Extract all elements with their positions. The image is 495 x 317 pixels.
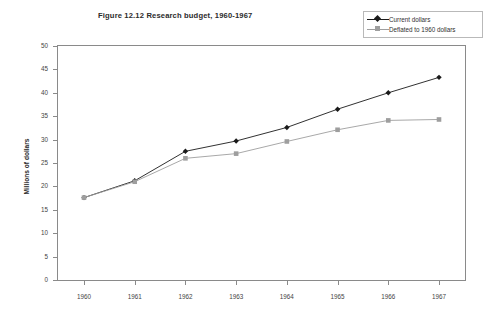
x-tick-mark	[84, 281, 85, 285]
x-axis-ticks: 19601961196219631964196519661967	[57, 281, 466, 311]
chart-legend: Current dollars Deflated to 1960 dollars	[363, 11, 483, 38]
data-point-diamond	[335, 106, 340, 111]
series-line	[84, 119, 439, 197]
legend-label-deflated-dollars: Deflated to 1960 dollars	[389, 25, 456, 34]
data-point-square	[183, 156, 188, 161]
x-tick-mark	[135, 281, 136, 285]
legend-label-current-dollars: Current dollars	[389, 15, 430, 24]
legend-marker-square-icon	[367, 25, 389, 34]
y-tick-label: 45	[28, 65, 48, 72]
x-tick-mark	[338, 281, 339, 285]
x-tick-label: 1963	[216, 293, 256, 300]
data-point-diamond	[436, 75, 441, 80]
chart-figure: Figure 12.12 Research budget, 1960-1967 …	[0, 0, 495, 317]
data-point-square	[386, 118, 391, 123]
data-point-square	[335, 127, 340, 132]
x-tick-label: 1964	[267, 293, 307, 300]
series-canvas	[58, 46, 465, 280]
chart-title: Figure 12.12 Research budget, 1960-1967	[98, 11, 252, 20]
x-tick-label: 1961	[115, 293, 155, 300]
data-point-square	[285, 139, 290, 144]
data-point-square	[234, 151, 239, 156]
x-tick-label: 1965	[318, 293, 358, 300]
x-tick-label: 1967	[419, 293, 459, 300]
data-point-diamond	[233, 138, 238, 143]
y-tick-label: 5	[28, 253, 48, 260]
x-tick-mark	[388, 281, 389, 285]
x-tick-mark	[185, 281, 186, 285]
y-tick-label: 15	[28, 206, 48, 213]
y-tick-label: 40	[28, 89, 48, 96]
y-axis-ticks: 05101520253035404550	[0, 45, 57, 281]
y-tick-label: 10	[28, 229, 48, 236]
plot-area	[57, 45, 466, 281]
data-point-diamond	[183, 149, 188, 154]
data-point-diamond	[386, 90, 391, 95]
legend-marker-diamond-icon	[367, 15, 389, 24]
y-tick-label: 35	[28, 112, 48, 119]
data-point-diamond	[284, 125, 289, 130]
y-tick-label: 25	[28, 159, 48, 166]
x-tick-mark	[287, 281, 288, 285]
x-tick-label: 1960	[64, 293, 104, 300]
x-tick-label: 1962	[165, 293, 205, 300]
y-tick-label: 20	[28, 182, 48, 189]
y-tick-label: 50	[28, 42, 48, 49]
x-tick-mark	[439, 281, 440, 285]
legend-item-deflated-dollars: Deflated to 1960 dollars	[367, 24, 479, 34]
data-point-square	[437, 117, 442, 122]
legend-item-current-dollars: Current dollars	[367, 14, 479, 24]
y-tick-label: 0	[28, 276, 48, 283]
x-tick-label: 1966	[368, 293, 408, 300]
y-tick-label: 30	[28, 136, 48, 143]
x-tick-mark	[236, 281, 237, 285]
series-line	[84, 77, 439, 197]
data-point-square	[82, 195, 87, 200]
data-point-square	[132, 179, 137, 184]
